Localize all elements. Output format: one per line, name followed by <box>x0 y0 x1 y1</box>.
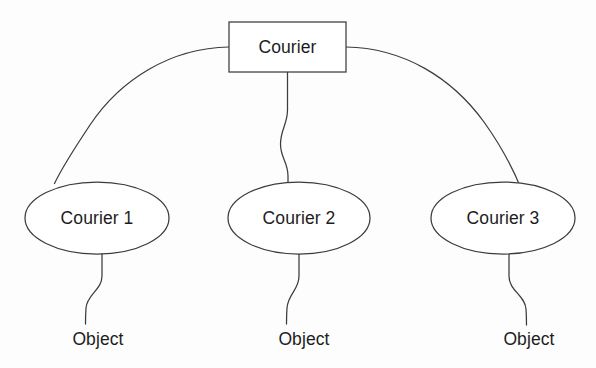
courier-3-label: Courier 3 <box>467 208 540 228</box>
diagram-svg: Courier Courier 1 Courier 2 Courier 3 Ob… <box>0 0 596 368</box>
object-label-1: Object <box>72 329 123 349</box>
connector-root-to-courier-2 <box>281 72 289 183</box>
node-courier-2[interactable]: Courier 2 <box>228 182 370 254</box>
courier-1-label: Courier 1 <box>61 208 134 228</box>
connector-root-to-courier-1 <box>55 47 230 184</box>
diagram-canvas: Courier Courier 1 Courier 2 Courier 3 Ob… <box>0 0 596 368</box>
connector-courier-1-to-object <box>86 253 103 324</box>
node-courier-root[interactable]: Courier <box>229 22 346 72</box>
courier-2-label: Courier 2 <box>263 208 336 228</box>
object-label-2: Object <box>278 329 329 349</box>
courier-root-label: Courier <box>258 37 316 57</box>
connector-courier-2-to-object <box>287 253 300 324</box>
node-courier-1[interactable]: Courier 1 <box>25 182 169 254</box>
object-label-3: Object <box>503 329 554 349</box>
connector-root-to-courier-3 <box>346 47 522 190</box>
node-courier-3[interactable]: Courier 3 <box>431 182 575 254</box>
connector-courier-3-to-object <box>509 253 527 325</box>
